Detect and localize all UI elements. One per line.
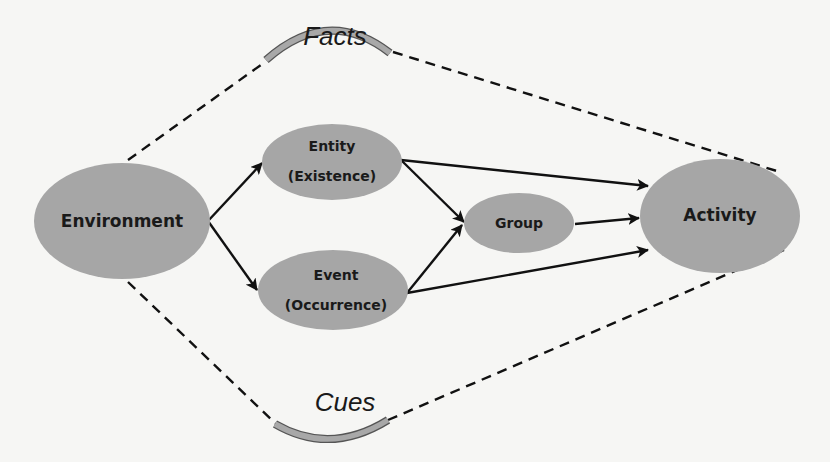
edge-group-activity bbox=[575, 218, 639, 224]
edge-event-group bbox=[407, 225, 462, 293]
node-environment: Environment bbox=[34, 163, 210, 279]
cues-envelope bbox=[128, 250, 784, 424]
facts-envelope bbox=[128, 52, 780, 172]
cues-arc bbox=[275, 420, 388, 439]
edge-entity-group bbox=[401, 160, 464, 222]
node-group-label: Group bbox=[495, 215, 543, 231]
concept-diagram: Facts Cues Environment Entity (Existence… bbox=[0, 0, 830, 462]
cues-label: Cues bbox=[315, 387, 376, 417]
node-environment-label: Environment bbox=[61, 211, 183, 231]
node-entity: Entity (Existence) bbox=[262, 124, 402, 200]
node-event-label: Event bbox=[314, 267, 359, 283]
node-event-sublabel: (Occurrence) bbox=[285, 297, 387, 313]
edge-environment-entity bbox=[208, 163, 262, 221]
node-entity-label: Entity bbox=[309, 138, 356, 154]
node-entity-sublabel: (Existence) bbox=[288, 168, 376, 184]
node-group: Group bbox=[464, 193, 574, 253]
node-event: Event (Occurrence) bbox=[258, 250, 408, 330]
edge-entity-activity bbox=[401, 160, 648, 186]
facts-label: Facts bbox=[303, 21, 367, 51]
edge-event-activity bbox=[407, 250, 648, 293]
node-activity: Activity bbox=[640, 159, 800, 273]
edge-environment-event bbox=[208, 221, 257, 290]
node-activity-label: Activity bbox=[683, 205, 756, 225]
